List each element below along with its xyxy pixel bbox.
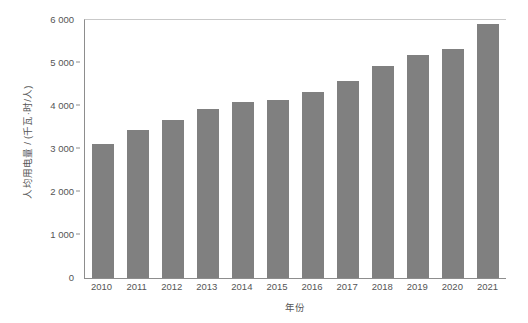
y-axis-title-text: 人均用电量 / (千瓦·时/人) <box>20 85 34 198</box>
bar <box>372 66 394 278</box>
y-tick-label: 0 <box>69 272 74 283</box>
bar-chart-figure: 人均用电量 / (千瓦·时/人) 01 0002 0003 0004 0005 … <box>0 0 528 323</box>
y-tick-label: 5 000 <box>50 57 74 68</box>
bar <box>197 109 219 278</box>
x-tick-label: 2019 <box>407 281 428 292</box>
y-tick-label: 3 000 <box>50 143 74 154</box>
x-tick-label: 2010 <box>91 281 112 292</box>
x-tick-label: 2016 <box>301 281 322 292</box>
y-tick-label: 2 000 <box>50 186 74 197</box>
y-tick-label: 4 000 <box>50 100 74 111</box>
bar <box>477 24 499 278</box>
y-axis-title: 人均用电量 / (千瓦·时/人) <box>18 0 36 283</box>
x-tick-label: 2017 <box>337 281 358 292</box>
x-tick-label: 2013 <box>196 281 217 292</box>
y-axis-ticks: 01 0002 0003 0004 0005 0006 000 <box>36 0 80 283</box>
bar <box>127 130 149 278</box>
x-axis-ticks: 2010201120122013201420152016201720182019… <box>84 281 505 297</box>
x-tick-label: 2015 <box>266 281 287 292</box>
x-tick-label: 2020 <box>442 281 463 292</box>
bar <box>337 81 359 278</box>
y-tick-mark <box>76 62 80 63</box>
bar <box>302 92 324 278</box>
y-tick-mark <box>76 234 80 235</box>
bar-series <box>85 20 506 278</box>
y-tick-mark <box>76 191 80 192</box>
bar <box>407 55 429 278</box>
x-tick-label: 2012 <box>161 281 182 292</box>
y-tick-mark <box>76 148 80 149</box>
bar <box>92 144 114 278</box>
y-tick-label: 1 000 <box>50 229 74 240</box>
x-tick-label: 2021 <box>477 281 498 292</box>
plot-area <box>84 19 506 279</box>
x-tick-label: 2014 <box>231 281 252 292</box>
bar <box>162 120 184 278</box>
bar <box>442 49 464 278</box>
x-tick-label: 2018 <box>372 281 393 292</box>
bar <box>232 102 254 278</box>
x-axis-title: 年份 <box>84 300 505 314</box>
y-tick-mark <box>76 105 80 106</box>
bar <box>267 100 289 278</box>
y-tick-label: 6 000 <box>50 14 74 25</box>
x-tick-label: 2011 <box>126 281 146 292</box>
